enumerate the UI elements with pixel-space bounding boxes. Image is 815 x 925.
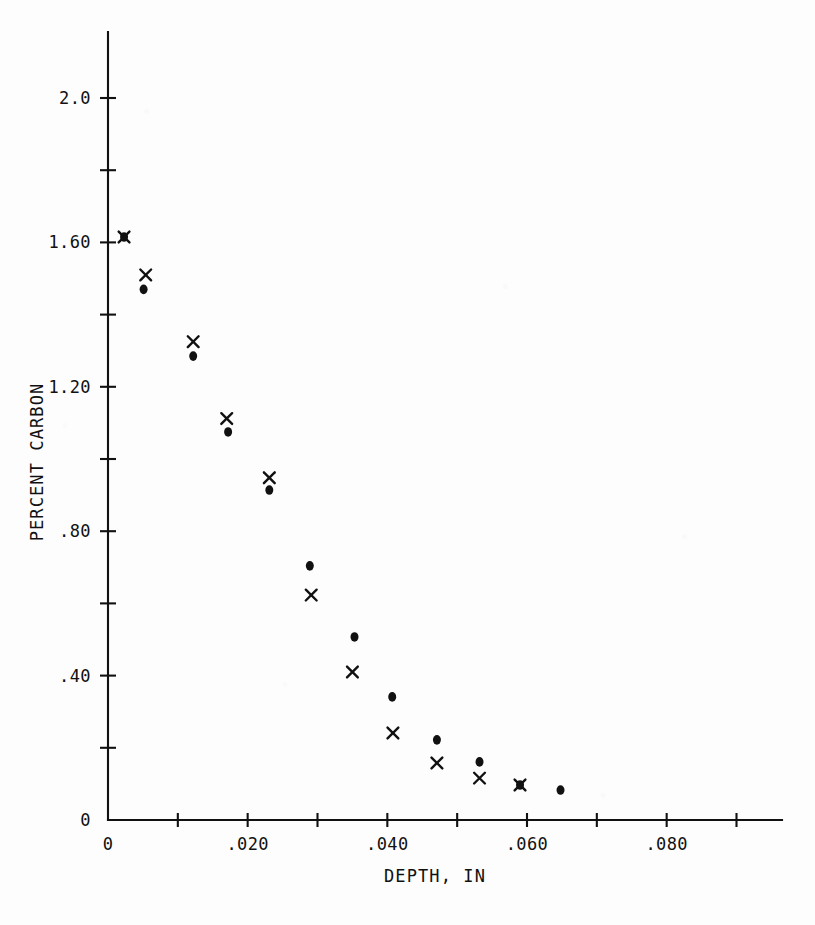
- data-point-dot: [189, 351, 197, 361]
- x-tick-label: 0: [103, 834, 114, 854]
- data-point-dot: [388, 692, 396, 702]
- x-tick-label: .020: [226, 834, 269, 854]
- x-axis-title: DEPTH, IN: [384, 866, 486, 886]
- data-point-x: [188, 336, 199, 347]
- data-point-dot: [433, 735, 441, 745]
- data-point-dot: [306, 561, 314, 571]
- data-point-x: [306, 590, 317, 601]
- x-tick-label: .080: [645, 834, 688, 854]
- y-tick-label: 2.0: [59, 88, 91, 108]
- y-axis-title: PERCENT CARBON: [27, 383, 47, 542]
- data-point-x: [474, 773, 485, 784]
- y-tick-label: .80: [59, 521, 91, 541]
- data-point-dot: [140, 285, 148, 295]
- data-point-dot: [224, 427, 232, 437]
- data-point-x: [264, 472, 275, 483]
- series-dot-markers: [120, 232, 564, 795]
- y-tick-label: 1.60: [48, 232, 91, 252]
- data-point-dot: [516, 780, 524, 790]
- data-point-dot: [557, 785, 565, 795]
- data-point-x: [388, 728, 399, 739]
- carbon-depth-figure: 0.020.040.060.080 0.40.801.201.602.0 DEP…: [0, 0, 815, 925]
- data-point-dot: [351, 632, 359, 642]
- series-x-markers: [119, 232, 526, 791]
- y-tick-label: 0: [80, 810, 91, 830]
- x-axis-tick-labels: 0.020.040.060.080: [103, 834, 688, 854]
- axis-lines: [108, 32, 782, 820]
- data-point-dot: [120, 232, 128, 242]
- data-point-x: [432, 758, 443, 769]
- data-point-dot: [476, 757, 484, 767]
- y-tick-label: 1.20: [48, 377, 91, 397]
- x-tick-label: .060: [506, 834, 549, 854]
- data-point-x: [140, 269, 151, 280]
- data-point-dot: [265, 485, 273, 495]
- y-axis-tick-labels: 0.40.801.201.602.0: [48, 88, 91, 830]
- y-tick-label: .40: [59, 666, 91, 686]
- data-point-x: [221, 413, 232, 424]
- data-point-x: [347, 667, 358, 678]
- x-tick-label: .040: [366, 834, 409, 854]
- scatter-plot-canvas: 0.020.040.060.080 0.40.801.201.602.0 DEP…: [0, 0, 815, 925]
